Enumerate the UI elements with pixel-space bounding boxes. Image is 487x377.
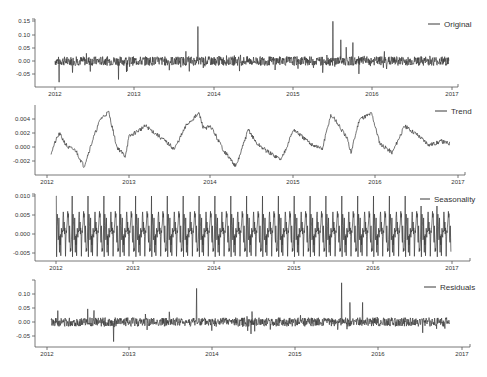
x-ticks: 2012 2013 2014 2015 2016 2017 — [40, 347, 469, 357]
x-tick-label: 2016 — [368, 179, 382, 185]
y-tick-label: -0.05 — [16, 71, 30, 77]
y-ticks: 0.010 0.005 0.000 -0.005 — [13, 193, 35, 256]
y-tick-label: 0.005 — [15, 212, 31, 218]
x-tick-label: 2016 — [365, 91, 379, 97]
y-tick-label: 0.00 — [18, 319, 30, 325]
x-tick-label: 2017 — [445, 91, 459, 97]
y-tick-label: 0.004 — [15, 116, 31, 122]
x-axis — [35, 258, 470, 261]
panel-residuals: 0.10 0.05 0.00 -0.05 2012 2013 2014 2015… — [16, 280, 475, 357]
legend-label-original: Original — [444, 20, 472, 29]
x-tick-label: 2012 — [49, 265, 63, 271]
y-tick-label: 0.05 — [18, 305, 30, 311]
x-tick-label: 2017 — [455, 351, 469, 357]
x-tick-label: 2016 — [366, 265, 380, 271]
x-tick-label: 2014 — [203, 179, 217, 185]
x-tick-label: 2014 — [207, 91, 221, 97]
x-tick-label: 2017 — [451, 179, 465, 185]
x-axis — [35, 344, 470, 347]
legend-label-residuals: Residuals — [440, 283, 475, 292]
x-ticks: 2012 2013 2014 2015 2016 2017 — [48, 87, 459, 97]
residuals-line — [51, 283, 449, 342]
y-tick-label: 0.10 — [18, 291, 30, 297]
legend-label-seasonality: Seasonality — [434, 195, 475, 204]
x-tick-label: 2015 — [286, 91, 300, 97]
panel-trend: 0.004 0.002 0.000 -0.002 2012 2013 2014 … — [13, 105, 472, 185]
x-axis — [35, 84, 458, 87]
panel-original: 0.15 0.10 0.05 0.00 -0.05 2012 2013 2014… — [16, 18, 471, 97]
seasonality-line — [56, 196, 451, 257]
x-axis — [35, 172, 465, 175]
y-tick-label: -0.05 — [16, 333, 30, 339]
y-tick-label: 0.002 — [15, 130, 31, 136]
y-axis — [32, 280, 35, 347]
y-tick-label: 0.10 — [18, 32, 30, 38]
trend-line — [51, 111, 450, 167]
legend: Trend — [435, 107, 472, 116]
y-tick-label: 0.010 — [15, 193, 31, 199]
y-ticks: 0.004 0.002 0.000 -0.002 — [13, 116, 35, 164]
original-line — [55, 21, 449, 82]
y-tick-label: 0.00 — [18, 58, 30, 64]
x-tick-label: 2014 — [207, 265, 221, 271]
x-tick-label: 2017 — [445, 265, 459, 271]
legend: Seasonality — [416, 193, 486, 206]
y-tick-label: 0.000 — [15, 231, 31, 237]
x-tick-label: 2015 — [288, 351, 302, 357]
x-ticks: 2012 2013 2014 2015 2016 2017 — [49, 261, 459, 271]
x-tick-label: 2014 — [205, 351, 219, 357]
x-tick-label: 2013 — [126, 265, 140, 271]
y-axis — [32, 194, 35, 261]
y-ticks: 0.10 0.05 0.00 -0.05 — [16, 291, 35, 339]
decomposition-figure: 0.15 0.10 0.05 0.00 -0.05 2012 2013 2014… — [0, 0, 487, 377]
y-tick-label: 0.15 — [18, 18, 30, 24]
legend: Original — [428, 20, 472, 29]
x-ticks: 2012 2013 2014 2015 2016 2017 — [40, 175, 465, 185]
legend-label-trend: Trend — [451, 107, 472, 116]
legend: Residuals — [424, 283, 475, 292]
y-tick-label: -0.002 — [13, 158, 31, 164]
x-tick-label: 2016 — [371, 351, 385, 357]
panel-seasonality: 0.010 0.005 0.000 -0.005 2012 2013 2014 … — [13, 193, 486, 271]
y-tick-label: 0.000 — [15, 144, 31, 150]
y-tick-label: 0.05 — [18, 45, 30, 51]
x-tick-label: 2012 — [40, 351, 54, 357]
x-tick-label: 2015 — [287, 265, 301, 271]
x-tick-label: 2012 — [48, 91, 62, 97]
y-ticks: 0.15 0.10 0.05 0.00 -0.05 — [16, 18, 35, 77]
x-tick-label: 2013 — [122, 351, 136, 357]
x-tick-label: 2013 — [127, 91, 141, 97]
x-tick-label: 2012 — [40, 179, 54, 185]
x-tick-label: 2013 — [122, 179, 136, 185]
y-tick-label: -0.005 — [13, 250, 31, 256]
x-tick-label: 2015 — [286, 179, 300, 185]
